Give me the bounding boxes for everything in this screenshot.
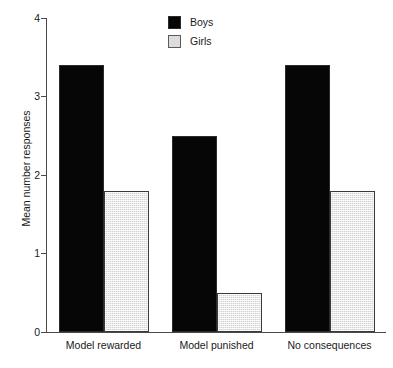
- bar-chart-figure: Mean number responses 4 3 2 1 0 Model re…: [0, 0, 393, 368]
- legend-label-girls: Girls: [190, 36, 212, 47]
- x-axis-label-no-consequences: No consequences: [273, 339, 386, 351]
- y-tick-label-2: 2: [14, 170, 40, 181]
- bar-boys-model-punished: [172, 136, 217, 332]
- y-tick-mark-2: [41, 175, 46, 176]
- legend: Boys Girls: [168, 13, 213, 51]
- bar-girls-model-rewarded: [104, 191, 149, 332]
- bar-girls-no-consequences: [330, 191, 375, 332]
- y-tick-label-1: 1: [14, 248, 40, 259]
- y-tick-label-3: 3: [14, 91, 40, 102]
- x-axis-line: [41, 332, 386, 333]
- y-tick-mark-4: [41, 18, 46, 19]
- y-tick-mark-1: [41, 253, 46, 254]
- x-axis-label-model-rewarded: Model rewarded: [47, 339, 160, 351]
- y-tick-mark-3: [41, 96, 46, 97]
- bar-boys-no-consequences: [285, 65, 330, 332]
- x-axis-label-model-punished: Model punished: [160, 339, 273, 351]
- y-tick-label-0: 0: [14, 327, 40, 338]
- legend-swatch-girls-icon: [168, 35, 181, 48]
- legend-item-boys: Boys: [168, 13, 213, 32]
- bar-girls-model-punished: [217, 293, 262, 332]
- plot-area: [47, 18, 386, 332]
- y-axis-title: Mean number responses: [21, 99, 32, 239]
- legend-item-girls: Girls: [168, 32, 213, 51]
- legend-label-boys: Boys: [190, 17, 213, 28]
- legend-swatch-boys-icon: [168, 16, 181, 29]
- bar-boys-model-rewarded: [59, 65, 104, 332]
- y-tick-label-4: 4: [14, 13, 40, 24]
